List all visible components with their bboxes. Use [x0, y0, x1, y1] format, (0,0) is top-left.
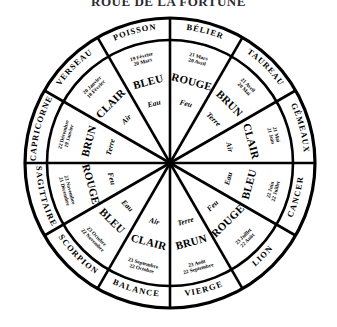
- sign-dates: 23 Juillet22 Août: [234, 227, 257, 250]
- sign-color-word: BLEU: [132, 72, 165, 92]
- sign-element-word: Terre: [104, 137, 117, 156]
- sign-element-word: Terre: [205, 110, 224, 129]
- sign-element-word: Eau: [119, 197, 135, 213]
- zodiac-sector-taureau[interactable]: TAUREAU21 Avril20 MaiBRUNTerre: [205, 47, 287, 129]
- zodiac-sector-lion[interactable]: LION23 Juillet22 AoûtROUGEFeu: [205, 198, 282, 275]
- sign-color-word: ROUGE: [80, 163, 102, 206]
- sign-color-word: ROUGE: [170, 70, 213, 92]
- sign-color-word: CLAIR: [130, 231, 169, 252]
- sign-element-word: Air: [224, 140, 236, 154]
- sign-name: POISSON: [112, 22, 157, 42]
- sign-dates: 23 Août22 Septembre: [181, 256, 215, 275]
- sign-color-word: BRUN: [174, 232, 208, 252]
- zodiac-sector-verseau[interactable]: VERSEAU20 Janvier18 FévrierCLAIRAir: [54, 47, 134, 127]
- sign-color-word: BLEU: [239, 168, 259, 201]
- sign-element-word: Feu: [179, 97, 194, 109]
- zodiac-wheel-page: ROUE DE LA FORTUNE BÉLIER21 Mars20 Avril…: [0, 0, 337, 327]
- sign-dates: 20 Janvier18 Février: [81, 74, 106, 99]
- zodiac-wheel-diagram: BÉLIER21 Mars20 AvrilROUGEFeuTAUREAU21 A…: [0, 0, 337, 327]
- sign-color-word: BLEU: [97, 206, 127, 236]
- sign-dates: 19 Février20 Mars: [129, 50, 155, 67]
- sign-name: LION: [250, 243, 275, 268]
- sign-element-word: Feu: [205, 198, 220, 213]
- sign-color-word: BRUN: [78, 124, 98, 158]
- sign-dates: 21 Avril20 Mai: [236, 77, 257, 98]
- sign-element-word: Eau: [146, 97, 162, 109]
- sign-color-word: BRUN: [214, 88, 245, 119]
- sign-dates: 22 Décembre19 Janvier: [57, 119, 76, 151]
- sign-dates: 23 Novembre21 Décembre: [58, 175, 77, 208]
- sign-element-word: Terre: [176, 215, 195, 228]
- sign-dates: 23 Septembre22 Octobre: [126, 256, 160, 275]
- sign-dates: 21 Mai21 Juin: [266, 126, 282, 145]
- sign-dates: 21 Mars20 Avril: [187, 51, 208, 67]
- sign-element-word: Eau: [222, 171, 234, 187]
- sign-dates: 23 Octobre22 Novembre: [80, 224, 110, 254]
- wheel-geometry: [25, 18, 315, 308]
- sign-element-word: Feu: [106, 171, 118, 186]
- zodiac-wheel-svg: BÉLIER21 Mars20 AvrilROUGEFeuTAUREAU21 A…: [0, 0, 337, 327]
- sign-dates: 22 Juin22 Juillet: [265, 179, 282, 202]
- sign-element-word: Air: [119, 112, 134, 127]
- sign-name: CAPRICORNE: [29, 94, 55, 161]
- sign-color-word: CLAIR: [241, 122, 262, 161]
- sign-element-word: Air: [147, 215, 161, 227]
